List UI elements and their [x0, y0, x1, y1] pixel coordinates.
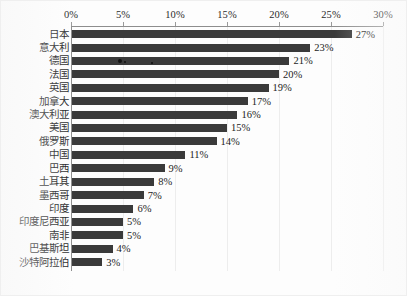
- bar-row: 中国11%: [1, 148, 407, 161]
- bar-value-label: 23%: [314, 41, 333, 54]
- bar-row: 沙特阿拉伯3%: [1, 256, 407, 269]
- bar: [72, 258, 102, 266]
- bar-row: 墨西哥7%: [1, 189, 407, 202]
- bar-value-label: 3%: [106, 256, 120, 269]
- scan-artifact-speck: [118, 59, 122, 63]
- category-label: 印度尼西亚: [19, 215, 69, 228]
- bar: [72, 178, 154, 186]
- category-label: 法国: [49, 68, 69, 81]
- x-axis-tick-label: 20%: [269, 9, 289, 20]
- bar-value-label: 4%: [117, 242, 131, 255]
- bar: [72, 84, 269, 92]
- bar-chart-figure: 0%5%10%15%20%25%30% 日本27%意大利23%德国21%法国20…: [0, 0, 407, 296]
- bar-value-label: 14%: [221, 135, 240, 148]
- bar-value-label: 27%: [356, 28, 375, 41]
- bar-value-label: 6%: [137, 202, 151, 215]
- bar: [72, 218, 123, 226]
- bar-value-label: 8%: [158, 175, 172, 188]
- category-label: 中国: [49, 148, 69, 161]
- bar-row: 南非5%: [1, 229, 407, 242]
- bar-row: 意大利23%: [1, 41, 407, 54]
- category-label: 土耳其: [39, 175, 69, 188]
- bar-row: 德国21%: [1, 54, 407, 67]
- bar-value-label: 5%: [127, 229, 141, 242]
- bar: [72, 124, 227, 132]
- category-label: 美国: [49, 121, 69, 134]
- category-label: 巴西: [49, 162, 69, 175]
- bar-row: 美国15%: [1, 121, 407, 134]
- bar: [72, 57, 289, 65]
- bar-value-label: 16%: [241, 108, 260, 121]
- bar-value-label: 9%: [169, 162, 183, 175]
- x-axis-tick-label: 30%: [373, 9, 393, 20]
- bar-value-label: 19%: [273, 81, 292, 94]
- bar-value-label: 17%: [252, 95, 271, 108]
- bar-value-label: 21%: [293, 54, 312, 67]
- bar: [72, 44, 310, 52]
- x-axis-tick-label: 5%: [116, 9, 130, 20]
- category-label: 意大利: [39, 41, 69, 54]
- category-label: 日本: [49, 28, 69, 41]
- bar-row: 土耳其8%: [1, 175, 407, 188]
- category-label: 墨西哥: [39, 189, 69, 202]
- category-label: 英国: [49, 81, 69, 94]
- x-axis-tick-label: 10%: [165, 9, 185, 20]
- bar: [72, 231, 123, 239]
- bar: [72, 97, 248, 105]
- bar-value-label: 20%: [283, 68, 302, 81]
- category-label: 加拿大: [39, 95, 69, 108]
- category-label: 沙特阿拉伯: [19, 256, 69, 269]
- category-label: 澳大利亚: [29, 108, 69, 121]
- category-label: 巴基斯坦: [29, 242, 69, 255]
- bar-row: 澳大利亚16%: [1, 108, 407, 121]
- bar-value-label: 15%: [231, 121, 250, 134]
- category-label: 印度: [49, 202, 69, 215]
- bar-row: 巴基斯坦4%: [1, 242, 407, 255]
- bar-row: 巴西9%: [1, 162, 407, 175]
- scan-artifact-speck: [124, 61, 126, 63]
- bar-row: 俄罗斯14%: [1, 135, 407, 148]
- category-label: 南非: [49, 229, 69, 242]
- bar-row: 日本27%: [1, 28, 407, 41]
- bar: [72, 137, 217, 145]
- bar-value-label: 5%: [127, 215, 141, 228]
- bar: [72, 164, 165, 172]
- bar-row: 英国19%: [1, 81, 407, 94]
- x-axis-tick-label-group: 0%5%10%15%20%25%30%: [1, 9, 407, 23]
- x-axis-tick-label: 25%: [321, 9, 341, 20]
- bar: [72, 151, 185, 159]
- bar-row: 加拿大17%: [1, 95, 407, 108]
- category-label: 俄罗斯: [39, 135, 69, 148]
- bar: [72, 191, 144, 199]
- bar: [72, 111, 237, 119]
- bar-row: 印度6%: [1, 202, 407, 215]
- bar: [72, 245, 113, 253]
- bar: [72, 205, 133, 213]
- scan-artifact-speck: [151, 62, 153, 64]
- bar-value-label: 11%: [189, 148, 208, 161]
- bar: [72, 70, 279, 78]
- bar-value-label: 7%: [148, 189, 162, 202]
- bar-row: 印度尼西亚5%: [1, 215, 407, 228]
- category-label: 德国: [49, 54, 69, 67]
- bar-row: 法国20%: [1, 68, 407, 81]
- x-axis-tick-label: 0%: [64, 9, 78, 20]
- bar: [72, 30, 352, 38]
- x-axis-tick-label: 15%: [217, 9, 237, 20]
